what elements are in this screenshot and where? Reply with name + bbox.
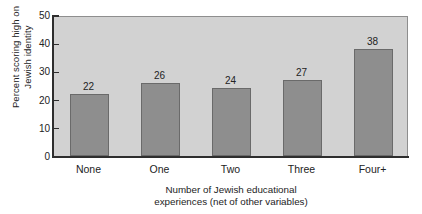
y-axis-line — [52, 15, 54, 158]
y-axis-tick — [54, 128, 59, 129]
y-axis-tick — [54, 156, 59, 157]
bar — [354, 49, 393, 156]
bar-chart-figure: Percent scoring high on Jewish identity … — [0, 0, 422, 214]
y-axis-tick-label: 40 — [6, 39, 50, 49]
x-axis-tick-label: Three — [267, 163, 337, 175]
bar — [70, 94, 109, 156]
bar — [212, 88, 251, 156]
x-axis-tick-label: None — [54, 163, 124, 175]
y-axis-tick — [54, 100, 59, 101]
bar — [283, 80, 322, 156]
x-axis-line — [53, 156, 409, 158]
x-axis-title-line-1: Number of Jewish educational — [53, 184, 409, 196]
bar-value-label: 26 — [140, 71, 180, 81]
bar-value-label: 22 — [69, 82, 109, 92]
x-axis-tick-label: One — [125, 163, 195, 175]
x-axis-tick-label: Two — [196, 163, 266, 175]
y-axis-tick-label: 0 — [6, 152, 50, 162]
x-axis-tick-label: Four+ — [338, 163, 408, 175]
y-axis-tick — [54, 72, 59, 73]
bar-value-label: 27 — [282, 68, 322, 78]
bar-value-label: 24 — [211, 76, 251, 86]
y-axis-tick-label: 50 — [6, 11, 50, 21]
y-axis-tick-label: 30 — [6, 67, 50, 77]
y-axis-tick — [54, 15, 59, 16]
y-axis-tick-label: 10 — [6, 124, 50, 134]
y-axis-tick-label: 20 — [6, 96, 50, 106]
x-axis-title-line-2: experiences (net of other variables) — [53, 196, 409, 208]
x-axis-title: Number of Jewish educational experiences… — [53, 184, 409, 207]
y-axis-tick — [54, 44, 59, 45]
bar — [141, 83, 180, 156]
bar-value-label: 38 — [353, 37, 393, 47]
